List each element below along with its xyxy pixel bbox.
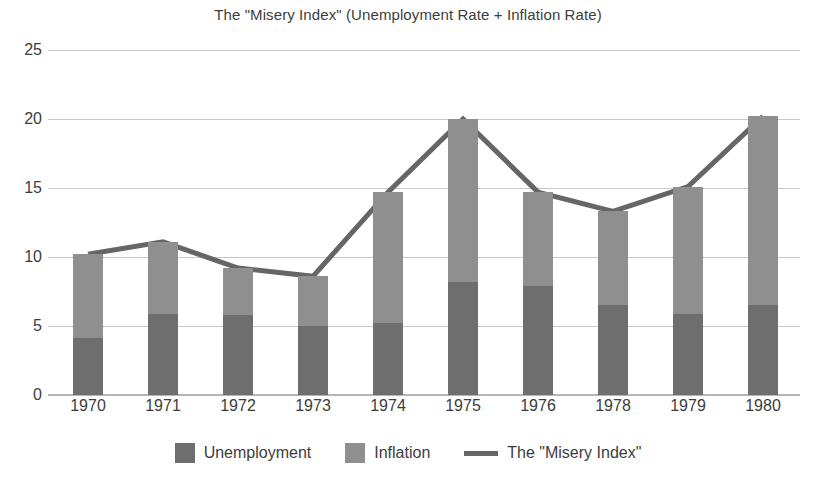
bar-segment-inflation — [673, 187, 703, 314]
x-axis-tick-label: 1971 — [128, 398, 198, 414]
bar-segment-inflation — [523, 192, 553, 286]
y-axis-tick-label: 15 — [2, 180, 42, 196]
y-axis-tick-label: 25 — [2, 42, 42, 58]
misery-index-line — [88, 116, 763, 276]
x-axis-tick-label: 1976 — [503, 398, 573, 414]
bar-segment-unemployment — [673, 314, 703, 395]
y-axis-tick-label: 20 — [2, 111, 42, 127]
legend-color-swatch — [345, 443, 365, 463]
plot-area — [48, 50, 800, 395]
y-axis-tick-label: 0 — [2, 387, 42, 403]
bar-column — [373, 192, 403, 395]
bar-column — [148, 242, 178, 395]
chart-legend: UnemploymentInflationThe "Misery Index" — [0, 437, 816, 469]
bar-segment-inflation — [373, 192, 403, 323]
bar-segment-inflation — [73, 254, 103, 338]
legend-label: Inflation — [374, 445, 430, 461]
chart-title: The "Misery Index" (Unemployment Rate + … — [0, 6, 816, 23]
bar-segment-inflation — [223, 268, 253, 315]
bar-segment-unemployment — [448, 282, 478, 395]
bar-segment-inflation — [598, 211, 628, 305]
x-axis-tick-label: 1980 — [728, 398, 798, 414]
legend-item[interactable]: Inflation — [345, 443, 430, 463]
bar-column — [523, 192, 553, 395]
x-axis-tick-label: 1973 — [278, 398, 348, 414]
x-axis: 1970197119721973197419751976197819791980 — [48, 398, 800, 424]
misery-index-chart: The "Misery Index" (Unemployment Rate + … — [0, 0, 816, 480]
bar-column — [73, 254, 103, 395]
bar-segment-inflation — [148, 242, 178, 314]
x-axis-tick-label: 1978 — [578, 398, 648, 414]
legend-color-swatch — [175, 443, 195, 463]
bar-segment-unemployment — [598, 305, 628, 395]
legend-line-marker — [464, 451, 498, 456]
legend-label: The "Misery Index" — [507, 445, 641, 461]
bar-segment-unemployment — [523, 286, 553, 395]
bar-column — [673, 187, 703, 395]
x-axis-tick-label: 1972 — [203, 398, 273, 414]
bar-segment-unemployment — [223, 315, 253, 395]
y-axis: 0510152025 — [0, 50, 42, 395]
bar-column — [448, 119, 478, 395]
bar-column — [223, 268, 253, 395]
y-axis-tick-label: 10 — [2, 249, 42, 265]
bar-column — [748, 116, 778, 395]
legend-item[interactable]: Unemployment — [175, 443, 312, 463]
legend-label: Unemployment — [204, 445, 312, 461]
gridline — [48, 50, 800, 51]
bar-segment-unemployment — [298, 326, 328, 395]
x-axis-tick-label: 1975 — [428, 398, 498, 414]
y-axis-tick-label: 5 — [2, 318, 42, 334]
x-axis-tick-label: 1974 — [353, 398, 423, 414]
legend-item[interactable]: The "Misery Index" — [464, 445, 641, 461]
bar-segment-unemployment — [148, 314, 178, 395]
bar-segment-unemployment — [73, 338, 103, 395]
gridline — [48, 119, 800, 120]
bar-column — [298, 276, 328, 395]
bar-segment-unemployment — [748, 305, 778, 395]
bar-segment-unemployment — [373, 323, 403, 395]
bar-column — [598, 211, 628, 395]
x-axis-tick-label: 1970 — [53, 398, 123, 414]
bar-segment-inflation — [748, 116, 778, 305]
bar-segment-inflation — [448, 119, 478, 282]
x-axis-tick-label: 1979 — [653, 398, 723, 414]
bar-segment-inflation — [298, 276, 328, 326]
